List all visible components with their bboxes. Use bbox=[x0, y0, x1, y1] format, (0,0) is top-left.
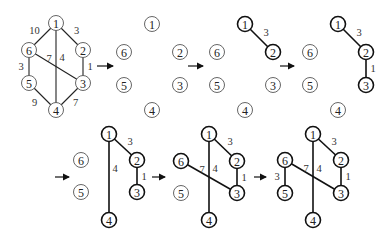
node-label-3: 3 bbox=[270, 79, 276, 93]
graph-panel-1: 123456 bbox=[117, 17, 188, 118]
edge-weight-label: 1 bbox=[345, 171, 350, 182]
node-label-6: 6 bbox=[307, 46, 313, 60]
node-label-2: 2 bbox=[80, 44, 86, 58]
node-label-3: 3 bbox=[177, 79, 183, 93]
node-label-1: 1 bbox=[53, 17, 59, 31]
node-label-4: 4 bbox=[206, 214, 212, 228]
node-label-4: 4 bbox=[53, 104, 59, 118]
edge-weight-label: 7 bbox=[73, 97, 78, 108]
edge-weight-label: 1 bbox=[241, 172, 246, 183]
edge-weight-label: 7 bbox=[46, 53, 51, 64]
graph-panel-0: 103417397123456 bbox=[18, 16, 92, 118]
node-label-2: 2 bbox=[338, 154, 344, 168]
graph-panel-4: 314123456 bbox=[74, 127, 147, 228]
edge-weight-label: 10 bbox=[29, 25, 40, 36]
edge-weight-label: 7 bbox=[303, 163, 308, 174]
edge-weight-label: 3 bbox=[331, 136, 336, 147]
node-label-3: 3 bbox=[134, 186, 140, 200]
edge-weight-label: 3 bbox=[74, 25, 79, 36]
node-label-3: 3 bbox=[234, 187, 240, 201]
edge-weight-label: 7 bbox=[199, 164, 204, 175]
edge-weight-label: 3 bbox=[274, 171, 279, 182]
node-label-5: 5 bbox=[214, 79, 220, 93]
node-label-4: 4 bbox=[310, 214, 316, 228]
node-label-4: 4 bbox=[335, 104, 341, 118]
graph-panel-5: 3147123456 bbox=[174, 127, 247, 228]
node-label-2: 2 bbox=[234, 155, 240, 169]
edge-weight-label: 3 bbox=[127, 136, 132, 147]
node-label-3: 3 bbox=[338, 187, 344, 201]
node-label-4: 4 bbox=[242, 104, 248, 118]
node-label-6: 6 bbox=[214, 46, 220, 60]
edge-weight-label: 4 bbox=[59, 52, 65, 63]
edge-weight-label: 4 bbox=[112, 163, 118, 174]
edge-weight-label: 3 bbox=[356, 27, 361, 38]
graph-panel-2: 3123456 bbox=[210, 17, 281, 118]
node-label-1: 1 bbox=[106, 128, 112, 142]
edge-weight-label: 3 bbox=[227, 136, 232, 147]
node-label-2: 2 bbox=[363, 46, 369, 60]
node-label-1: 1 bbox=[206, 128, 212, 142]
edge-weight-label: 4 bbox=[316, 163, 322, 174]
node-label-6: 6 bbox=[121, 46, 127, 60]
node-label-3: 3 bbox=[80, 77, 86, 91]
node-label-1: 1 bbox=[310, 128, 316, 142]
node-label-1: 1 bbox=[242, 18, 248, 32]
edge-weight-label: 1 bbox=[87, 61, 92, 72]
node-label-3: 3 bbox=[363, 79, 369, 93]
node-label-5: 5 bbox=[26, 77, 32, 91]
edge-weight-label: 3 bbox=[263, 27, 268, 38]
node-label-4: 4 bbox=[149, 104, 155, 118]
node-label-5: 5 bbox=[121, 79, 127, 93]
node-label-4: 4 bbox=[106, 214, 112, 228]
node-label-1: 1 bbox=[335, 18, 341, 32]
edge-weight-label: 1 bbox=[370, 63, 375, 74]
node-label-1: 1 bbox=[149, 18, 155, 32]
node-label-6: 6 bbox=[282, 154, 288, 168]
edge-weight-label: 4 bbox=[212, 163, 218, 174]
graph-panel-6: 31473123456 bbox=[274, 127, 350, 228]
node-label-5: 5 bbox=[178, 187, 184, 201]
node-label-6: 6 bbox=[26, 44, 32, 58]
node-label-5: 5 bbox=[282, 187, 288, 201]
node-label-6: 6 bbox=[178, 155, 184, 169]
node-label-6: 6 bbox=[78, 154, 84, 168]
node-label-5: 5 bbox=[307, 79, 313, 93]
node-label-5: 5 bbox=[78, 186, 84, 200]
mst-diagram: 1034173971234561234563123456311234563141… bbox=[0, 0, 392, 247]
node-label-2: 2 bbox=[177, 46, 183, 60]
node-label-2: 2 bbox=[134, 154, 140, 168]
edge-weight-label: 1 bbox=[141, 171, 146, 182]
graph-panel-3: 31123456 bbox=[303, 17, 376, 118]
edge-weight-label: 3 bbox=[18, 61, 23, 72]
node-label-2: 2 bbox=[270, 46, 276, 60]
edge-weight-label: 9 bbox=[32, 97, 37, 108]
